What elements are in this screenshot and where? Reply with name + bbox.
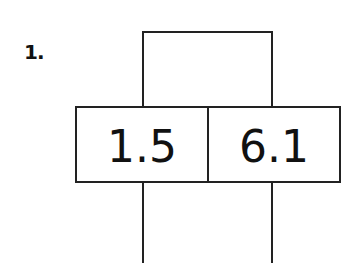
top-empty-box [142, 31, 273, 107]
number-row: 1.5 6.1 [75, 106, 341, 183]
right-number-cell: 6.1 [207, 108, 339, 181]
problem-number: 1. [24, 42, 44, 62]
left-number-cell: 1.5 [77, 108, 207, 181]
bottom-empty-box [142, 183, 273, 263]
